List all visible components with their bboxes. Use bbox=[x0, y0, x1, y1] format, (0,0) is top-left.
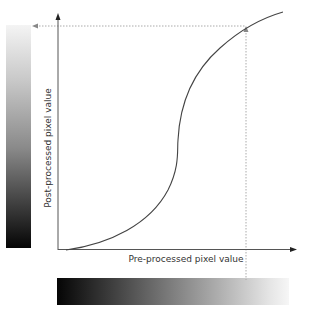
y-axis-label: Post-processed pixel value bbox=[43, 88, 53, 208]
guide-arrow-left-icon bbox=[32, 24, 38, 29]
x-axis-arrow-icon bbox=[290, 247, 297, 252]
tone-curve bbox=[66, 12, 283, 250]
x-axis-label: Pre-processed pixel value bbox=[129, 254, 244, 264]
y-axis-arrow-icon bbox=[56, 13, 61, 20]
